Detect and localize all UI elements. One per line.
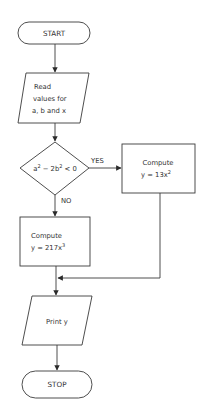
read-line-2: values for bbox=[33, 95, 67, 103]
compute-yes-node: Compute y = 13x2 bbox=[122, 144, 195, 193]
compute-no-line-1: Compute bbox=[31, 232, 62, 240]
compute-yes-line-1: Compute bbox=[143, 159, 174, 167]
read-line-3: a, b and x bbox=[32, 107, 66, 115]
start-terminal: START bbox=[18, 22, 90, 44]
merge-line-yes-branch bbox=[58, 193, 160, 278]
read-line-1: Read bbox=[34, 83, 51, 91]
print-output-node: Print y bbox=[22, 296, 92, 345]
stop-terminal: STOP bbox=[22, 371, 92, 398]
read-input-node: Read values for a, b and x bbox=[18, 73, 89, 123]
decision-node: a2 − 2b2 < 0 bbox=[20, 142, 89, 195]
compute-no-line-2: y = 217x3 bbox=[31, 242, 65, 252]
compute-no-node: Compute y = 217x3 bbox=[20, 217, 90, 266]
print-label: Print y bbox=[46, 318, 68, 326]
no-label: NO bbox=[61, 197, 71, 205]
start-label: START bbox=[43, 29, 66, 38]
yes-label: YES bbox=[90, 157, 104, 165]
compute-yes-line-2: y = 13x2 bbox=[141, 169, 171, 179]
stop-label: STOP bbox=[48, 380, 68, 389]
flowchart: START Read values for a, b and x a2 − 2b… bbox=[0, 0, 207, 417]
decision-expression: a2 − 2b2 < 0 bbox=[33, 163, 77, 173]
